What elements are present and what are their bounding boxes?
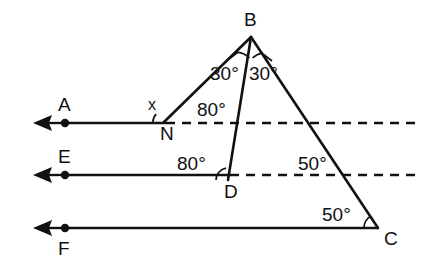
arc-at-C <box>364 216 370 228</box>
angle-label-50-upper-on-BC: 50° <box>298 153 327 174</box>
point-label-C: C <box>384 228 398 249</box>
point-dot-E <box>61 171 69 179</box>
point-label-F: F <box>58 238 70 259</box>
segment-B-to-D <box>228 37 251 180</box>
angle-label-x-at-N: x <box>148 96 156 113</box>
angle-label-50-at-C: 50° <box>322 204 351 225</box>
point-dot-F <box>61 224 69 232</box>
point-label-D: D <box>224 181 238 202</box>
point-label-B: B <box>244 9 257 30</box>
angle-label-80-at-N: 80° <box>197 99 226 120</box>
angle-label-80-at-D: 80° <box>177 153 206 174</box>
arc-at-N-x <box>153 114 156 122</box>
point-label-N: N <box>160 123 174 144</box>
angle-label-30-right-at-B: 30° <box>249 63 278 84</box>
geometry-figure: B N D C A E F x 30° 30° 80° 80° 50° 50° <box>0 0 425 273</box>
point-dot-A <box>61 119 69 127</box>
arc-at-B-right <box>253 53 263 58</box>
angle-label-30-left-at-B: 30° <box>210 63 239 84</box>
point-label-A: A <box>58 94 71 115</box>
point-label-E: E <box>58 146 71 167</box>
geometry-diagram-root: B N D C A E F x 30° 30° 80° 80° 50° 50° <box>0 0 425 273</box>
